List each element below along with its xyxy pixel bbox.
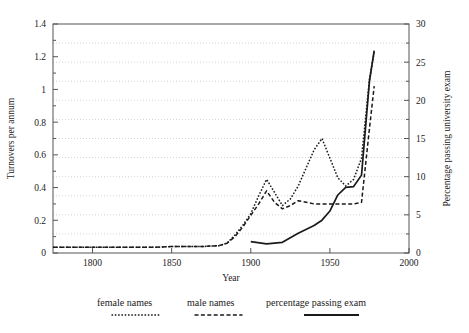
y2-axis-tick-label: 15 (416, 134, 426, 144)
legend-label-0: female names (97, 297, 152, 308)
y-axis-tick-label: 0.2 (34, 216, 46, 226)
y-axis-title: Turnovers per annum (6, 97, 16, 179)
y2-axis-tick-label: 20 (416, 96, 426, 106)
y2-axis-title: Percentage passing university exam (442, 70, 452, 206)
y2-axis-tick-label: 10 (416, 172, 426, 182)
y2-axis-tick-label: 30 (416, 19, 426, 29)
y2-axis-tick-label: 0 (416, 248, 421, 258)
y-axis-tick-label: 0 (41, 248, 46, 258)
legend-label-1: male names (187, 297, 235, 308)
x-axis-tick-label: 2000 (400, 258, 419, 268)
y-axis-tick-label: 0.8 (34, 118, 46, 128)
x-axis-title: Year (222, 273, 240, 283)
y-axis-tick-label: 0.4 (34, 183, 46, 193)
y-axis-tick-label: 1 (41, 85, 46, 95)
y-axis-tick-label: 0.6 (34, 150, 46, 160)
legend-label-2: percentage passing exam (266, 297, 366, 308)
chart-background (0, 0, 469, 333)
x-axis-tick-label: 1900 (241, 258, 260, 268)
y2-axis-tick-label: 5 (416, 210, 421, 220)
dual-axis-line-chart: 00.20.40.60.811.21.405101520253018001850… (0, 0, 469, 333)
y-axis-tick-label: 1.4 (34, 19, 46, 29)
y2-axis-tick-label: 25 (416, 58, 426, 68)
x-axis-tick-label: 1800 (83, 258, 102, 268)
x-axis-tick-label: 1950 (320, 258, 339, 268)
y-axis-tick-label: 1.2 (34, 52, 46, 62)
chart-figure: 00.20.40.60.811.21.405101520253018001850… (0, 0, 469, 333)
x-axis-tick-label: 1850 (162, 258, 181, 268)
